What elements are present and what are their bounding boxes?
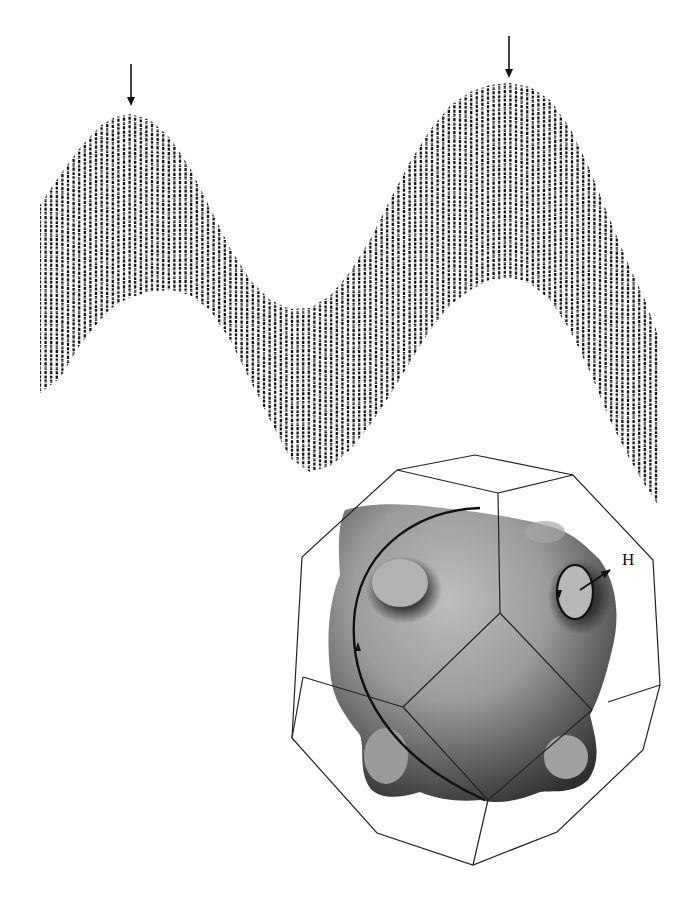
neck-lower-left <box>364 728 408 784</box>
arrow-head-icon <box>127 97 135 106</box>
neck-top-right <box>525 521 565 543</box>
waveform-stripes <box>40 81 656 504</box>
fermi-surface <box>328 504 616 802</box>
figure-canvas: H <box>0 0 699 908</box>
oscillation-waveform <box>35 60 663 515</box>
brillouin-zone-diagram: H <box>292 455 660 865</box>
bz-edge <box>397 470 498 493</box>
arrow-head-icon <box>505 69 513 78</box>
neck-upper-left <box>372 559 428 607</box>
field-label-h: H <box>622 550 634 569</box>
peak-arrows <box>127 36 513 106</box>
bz-edge <box>498 475 573 493</box>
bz-edge <box>608 685 660 702</box>
neck-lower-right <box>544 735 588 779</box>
bz-edge <box>473 800 488 865</box>
